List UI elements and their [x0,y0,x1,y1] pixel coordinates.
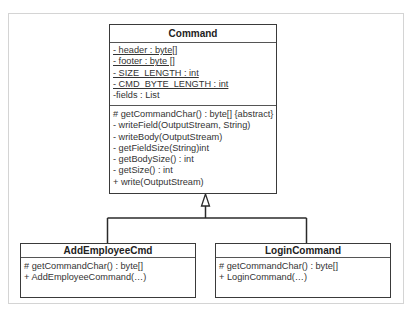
attribute-row: - footer : byte [] [113,56,276,67]
class-add-employee-cmd: AddEmployeeCmd # getCommandChar() : byte… [20,243,196,298]
operations-section: # getCommandChar() : byte[] {abstract} -… [110,105,276,190]
operation-row: + write(OutputStream) [113,177,276,188]
class-name: Command [110,25,276,43]
class-name: AddEmployeeCmd [21,244,195,258]
operation-row: # getCommandChar() : byte[] [24,261,195,272]
operation-row: # getCommandChar() : byte[] [219,261,390,272]
operation-row: + AddEmployeeCommand(…) [24,272,195,283]
attributes-section: - header : byte[] - footer : byte [] - S… [110,43,276,105]
inheritance-arrowhead-icon [202,194,210,206]
operation-row: - getSize() : int [113,165,276,176]
operation-row: - getFieldSize(String)int [113,143,276,154]
operation-row: - getBodySize() : int [113,154,276,165]
operation-row: + LoginCommand(…) [219,272,390,283]
attribute-row: - CMD_BYTE_LENGTH : int [113,79,276,90]
class-name: LoginCommand [216,244,390,258]
operation-row: # getCommandChar() : byte[] {abstract} [113,109,276,120]
attribute-row: - SIZE_LENGTH : int [113,68,276,79]
attribute-row: - header : byte[] [113,45,276,56]
class-login-command: LoginCommand # getCommandChar() : byte[]… [215,243,391,298]
operations-section: # getCommandChar() : byte[] + LoginComma… [216,258,390,286]
operations-section: # getCommandChar() : byte[] + AddEmploye… [21,258,195,286]
attribute-row: -fields : List [113,90,276,101]
operation-row: - writeField(OutputStream, String) [113,120,276,131]
class-command: Command - header : byte[] - footer : byt… [109,24,277,194]
operation-row: - writeBody(OutputStream) [113,132,276,143]
